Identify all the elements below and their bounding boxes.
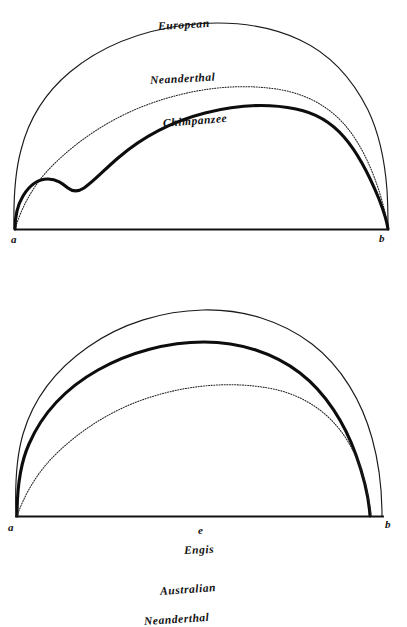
axis-point-a-upper: a [11, 233, 17, 245]
lower-figure: Engis Australian Neanderthal [0, 262, 407, 545]
upper-figure-canvas [0, 0, 407, 262]
label-australian: Australian [160, 581, 217, 597]
axis-point-a-lower: a [8, 521, 14, 533]
label-neanderthal-lower: Neanderthal [144, 611, 210, 627]
curve-neanderthal-lower [17, 385, 371, 516]
axis-point-b-lower: b [385, 518, 391, 530]
axis-point-b-upper: b [379, 232, 385, 244]
curve-australian [17, 342, 370, 516]
label-engis: Engis [184, 543, 215, 556]
curve-neanderthal-upper [15, 87, 388, 229]
upper-figure: European Neanderthal Chimpanzee [0, 0, 407, 262]
lower-figure-canvas [0, 262, 407, 545]
axis-point-e-lower: e [198, 524, 203, 536]
